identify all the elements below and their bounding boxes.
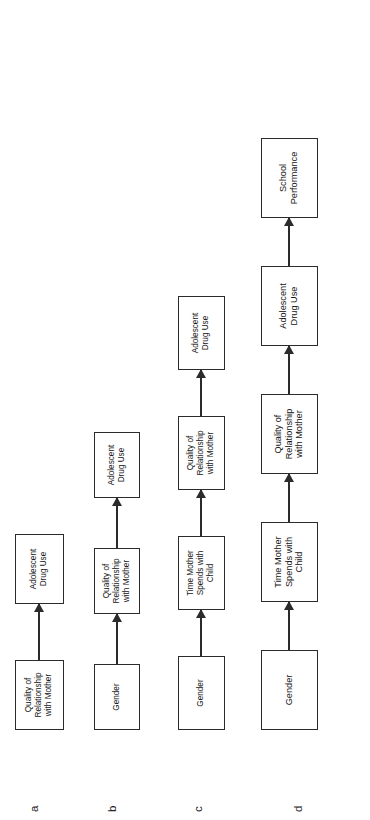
node-label: Adolescent Drug Use <box>278 283 300 328</box>
node-adolescent-drug-use: Adolescent Drug Use <box>15 534 64 604</box>
node-adolescent-drug-use: Adolescent Drug Use <box>261 266 318 346</box>
node-gender: Gender <box>178 656 225 730</box>
arrow-quality-to-drug-use <box>116 498 117 548</box>
model-c-chain: Gender Time Mother Spends with Child Qua… <box>162 296 240 730</box>
arrow-time-mother-to-quality <box>200 490 201 536</box>
node-time-mother-spends-with-child: Time Mother Spends with Child <box>178 536 225 610</box>
arrow-drug-use-to-school-performance <box>288 218 289 266</box>
node-quality-of-relationship-with-mother: Quality of Relationship with Mother <box>94 548 140 614</box>
node-label: School Performance <box>278 152 300 205</box>
arrow-time-mother-to-quality <box>288 474 289 522</box>
model-b-chain: Gender Quality of Relationship with Moth… <box>78 432 156 730</box>
arrow-quality-to-drug-use <box>288 346 289 394</box>
model-row-c: c Gender Time Mother Spends with Child Q… <box>162 0 240 820</box>
path-diagram-figure: a Quality of Relationship with Mother Ad… <box>0 0 370 820</box>
node-label: Quality of Relationship with Mother <box>102 558 131 603</box>
arrow-gender-to-time-mother <box>288 602 289 650</box>
node-label: Gender <box>112 683 122 710</box>
node-label: Quality of Relationship with Mother <box>186 430 215 475</box>
node-label: Quality of Relationship with Mother <box>273 409 306 460</box>
node-label: Gender <box>196 679 206 706</box>
model-label-b: b <box>106 794 118 812</box>
node-label: Adolescent Drug Use <box>191 313 210 354</box>
model-a-chain: Quality of Relationship with Mother Adol… <box>0 534 78 730</box>
node-label: Adolescent Drug Use <box>29 549 48 590</box>
node-label: Adolescent Drug Use <box>107 445 126 486</box>
node-quality-of-relationship-with-mother: Quality of Relationship with Mother <box>15 660 64 730</box>
arrow-quality-to-drug-use <box>200 370 201 416</box>
model-row-d: d Gender Time Mother Spends with Child Q… <box>250 0 328 820</box>
model-row-a: a Quality of Relationship with Mother Ad… <box>0 0 78 820</box>
node-gender: Gender <box>94 664 140 730</box>
node-quality-of-relationship-with-mother: Quality of Relationship with Mother <box>178 416 225 490</box>
arrow-quality-to-drug-use <box>38 604 39 660</box>
node-label: Quality of Relationship with Mother <box>24 672 53 717</box>
node-adolescent-drug-use: Adolescent Drug Use <box>178 296 225 370</box>
model-row-b: b Gender Quality of Relationship with Mo… <box>78 0 156 820</box>
node-time-mother-spends-with-child: Time Mother Spends with Child <box>261 522 318 602</box>
node-label: Gender <box>284 675 295 706</box>
node-adolescent-drug-use: Adolescent Drug Use <box>94 432 140 498</box>
model-label-a: a <box>28 794 40 812</box>
model-label-c: c <box>192 794 204 812</box>
node-label: Time Mother Spends with Child <box>186 550 215 596</box>
arrow-gender-to-time-mother <box>200 610 201 656</box>
model-label-d: d <box>292 794 304 812</box>
model-d-chain: Gender Time Mother Spends with Child Qua… <box>250 138 328 730</box>
arrow-gender-to-quality <box>116 614 117 664</box>
node-school-performance: School Performance <box>261 138 318 218</box>
node-gender: Gender <box>261 650 318 730</box>
node-label: Time Mother Spends with Child <box>273 536 306 587</box>
node-quality-of-relationship-with-mother: Quality of Relationship with Mother <box>261 394 318 474</box>
